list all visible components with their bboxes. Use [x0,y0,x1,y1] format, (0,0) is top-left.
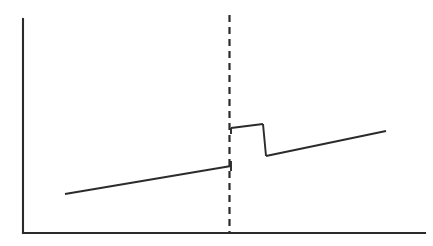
post-cutoff-trend-line [266,131,386,156]
post-cutoff-plateau-line [231,124,263,128]
chart-figure [0,0,433,246]
post-plateau-drop-line [263,124,266,156]
pre-cutoff-trend-line [65,166,231,194]
chart-canvas [0,0,433,246]
